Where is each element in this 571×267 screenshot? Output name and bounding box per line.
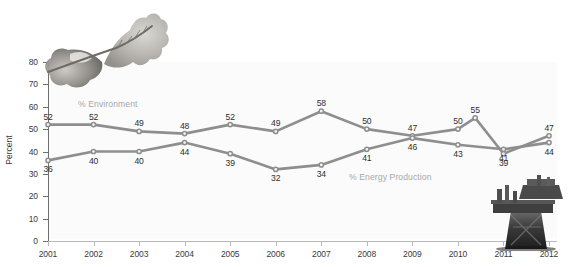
chart-container: Percent 01020304050607080 20012002200320… [0, 0, 571, 267]
data-point-energy [547, 141, 551, 145]
point-label-environment: 47 [397, 123, 427, 133]
point-label-energy: 40 [124, 156, 154, 166]
data-point-energy [319, 163, 323, 167]
data-point-energy [91, 149, 95, 153]
data-point-environment [456, 127, 460, 131]
data-point-energy [365, 147, 369, 151]
markers-environment [46, 109, 551, 156]
data-point-energy [456, 143, 460, 147]
point-label-energy: 34 [306, 169, 336, 179]
point-label-energy: 44 [170, 147, 200, 157]
data-point-energy [274, 167, 278, 171]
point-label-energy: 44 [534, 147, 564, 157]
data-point-energy [410, 136, 414, 140]
point-label-energy: 43 [443, 149, 473, 159]
data-point-environment [46, 123, 50, 127]
point-label-environment: 49 [124, 118, 154, 128]
data-point-environment [228, 123, 232, 127]
point-label-environment: 52 [33, 112, 63, 122]
point-label-energy: 40 [79, 156, 109, 166]
data-point-energy [228, 152, 232, 156]
point-label-environment: 50 [352, 116, 382, 126]
point-label-energy: 41 [489, 153, 519, 163]
data-point-environment [91, 123, 95, 127]
series-layer [0, 0, 571, 267]
data-point-energy [46, 158, 50, 162]
point-label-environment: 52 [79, 112, 109, 122]
data-point-energy [501, 147, 505, 151]
point-label-environment: 49 [261, 118, 291, 128]
data-point-environment [137, 129, 141, 133]
series-label-energy: % Energy Production [349, 172, 432, 182]
point-label-energy: 41 [352, 153, 382, 163]
point-label-environment: 52 [215, 112, 245, 122]
data-point-environment [365, 127, 369, 131]
point-label-energy: 36 [33, 164, 63, 174]
point-label-energy: 46 [397, 142, 427, 152]
data-point-energy [183, 141, 187, 145]
point-label-environment: 47 [534, 123, 564, 133]
data-point-energy [137, 149, 141, 153]
point-label-environment: 55 [460, 105, 490, 115]
data-point-environment [473, 116, 477, 120]
point-label-environment: 58 [306, 98, 336, 108]
series-label-environment: % Environment [78, 99, 138, 109]
data-point-environment [274, 129, 278, 133]
point-label-energy: 32 [261, 173, 291, 183]
point-label-environment: 50 [443, 116, 473, 126]
point-label-energy: 39 [215, 158, 245, 168]
point-label-environment: 48 [170, 121, 200, 131]
data-point-environment [319, 109, 323, 113]
data-point-environment [183, 132, 187, 136]
data-point-environment [547, 134, 551, 138]
